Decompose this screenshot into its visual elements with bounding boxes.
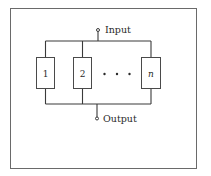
output-label: Output bbox=[103, 113, 137, 124]
input-terminal-icon bbox=[97, 29, 100, 32]
input-label: Input bbox=[105, 24, 131, 35]
component-n-label: n bbox=[148, 69, 154, 79]
parallel-system-diagram: 1 2 n Input Output bbox=[0, 0, 211, 176]
output-terminal-icon bbox=[96, 117, 99, 120]
component-1-label: 1 bbox=[43, 69, 49, 79]
component-2-label: 2 bbox=[80, 69, 86, 79]
ellipsis-dots-icon bbox=[103, 73, 130, 75]
